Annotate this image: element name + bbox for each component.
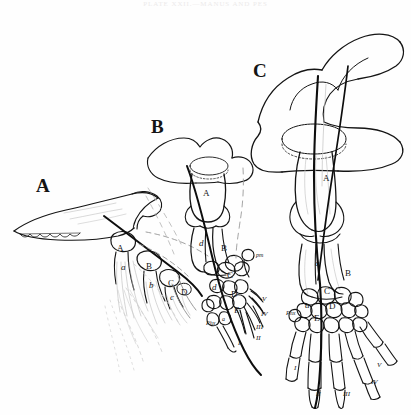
fig-c-bone-label-a1: a [315, 258, 320, 268]
figure-c-drawing [251, 34, 403, 408]
anatomical-plate-drawing [0, 0, 411, 415]
fig-c-digit-II: II [316, 390, 321, 398]
figure-b-drawing [146, 138, 264, 375]
fig-b-bone-label-d1: d [199, 238, 204, 248]
figure-label-a: A [36, 175, 50, 197]
fig-c-digit-IV: IV [371, 378, 378, 386]
fig-b-bone-label-phx: Phx [206, 320, 215, 326]
fig-c-digit-III: III [343, 390, 350, 398]
figure-a-drawing [14, 192, 208, 372]
fig-a-bone-label-D: D [181, 287, 188, 297]
fig-c-bone-label-C: C [324, 286, 330, 296]
fig-b-digit-I: I [238, 339, 240, 347]
fig-c-bone-label-a2: a [305, 300, 310, 310]
fig-b-digit-III: III [256, 323, 263, 331]
fig-c-digit-V: V [377, 361, 381, 369]
fig-c-bone-label-E: E [314, 313, 320, 323]
fig-b-bone-label-d2: d [212, 282, 217, 292]
fig-a-bone-label-B: B [146, 261, 152, 271]
fig-a-bone-label-C: C [168, 278, 174, 288]
fig-b-digit-IV: IV [261, 310, 268, 318]
fig-b-bone-label-A: A [203, 188, 210, 198]
fig-a-bone-label-A: A [117, 243, 124, 253]
fig-c-digit-I: I [294, 364, 296, 372]
fig-c-bone-label-A: A [323, 173, 330, 183]
plate-figure-page: PLATE XXII.—MANUS AND PES [0, 0, 411, 415]
fig-a-bone-label-a: a [121, 262, 126, 272]
fig-b-digit-II: II [256, 334, 261, 342]
fig-b-bone-label-B: B [221, 243, 227, 253]
fig-b-bone-label-pm: pm [256, 252, 263, 258]
fig-b-bone-label-E: E [234, 305, 240, 315]
fig-a-bone-label-b: b [149, 280, 154, 290]
fig-b-bone-label-D: D [231, 289, 238, 299]
figure-label-c: C [253, 60, 267, 82]
figure-label-b: B [151, 116, 164, 138]
fig-b-bone-label-C: C [227, 270, 233, 280]
fig-c-bone-label-B: B [345, 268, 351, 278]
fig-c-bone-label-D: D [329, 301, 336, 311]
fig-c-bone-label-phx: Phx [286, 310, 295, 316]
fig-b-bone-label-a: a [222, 316, 225, 322]
fig-a-bone-label-c: c [170, 292, 174, 302]
fig-b-digit-V: V [262, 295, 266, 303]
